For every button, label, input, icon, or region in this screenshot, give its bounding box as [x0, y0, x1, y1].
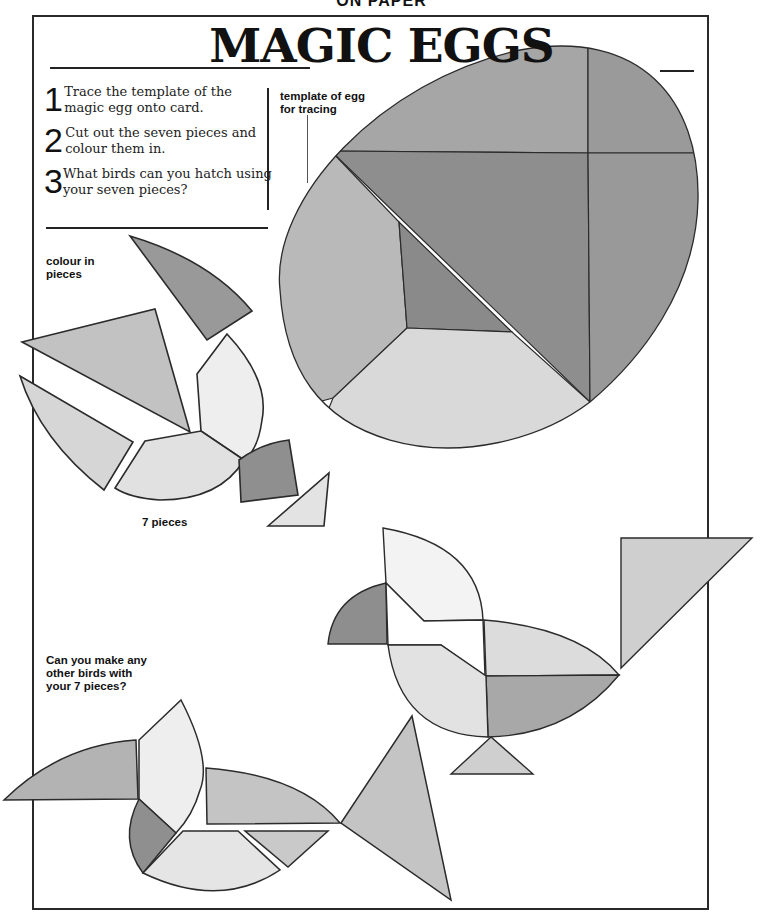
page-title: MAGIC EGGS [0, 22, 763, 69]
bird2-beak [4, 740, 138, 800]
template-pointer-line [307, 115, 308, 183]
bird1-upper-body [484, 620, 619, 676]
egg-piece-right [588, 153, 720, 480]
egg-template [250, 20, 720, 480]
artwork [0, 0, 763, 920]
bird-1 [328, 528, 752, 774]
bird-2 [4, 700, 451, 900]
bird1-tail [621, 538, 752, 668]
bird2-tail [341, 716, 451, 900]
bird2-back [206, 768, 340, 824]
label-template: template of egg for tracing [280, 90, 365, 116]
bird1-feet [451, 737, 533, 774]
bird1-lower-body [486, 675, 619, 737]
bird1-beak [328, 583, 387, 644]
